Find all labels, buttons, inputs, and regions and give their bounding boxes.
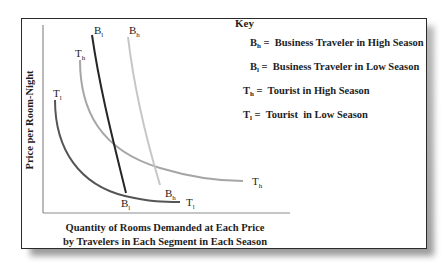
label-bh-top: Bh (129, 24, 140, 39)
label-th-top: Th (75, 47, 86, 62)
label-bh-bottom: Bh (165, 187, 176, 202)
curve-tl (55, 100, 180, 202)
x-axis-label: Quantity of Rooms Demanded at Each Price… (63, 221, 267, 249)
x-axis-label-line1: Quantity of Rooms Demanded at Each Price (63, 221, 267, 235)
curve-bl (92, 35, 126, 193)
key-item-th: Th = Tourist in High Season (243, 85, 370, 98)
curve-th (80, 60, 243, 181)
label-bl-bottom: Bl (121, 197, 130, 212)
y-axis-label: Price per Room-Night (24, 71, 35, 170)
key-title: Key (235, 17, 254, 29)
x-axis-label-line2: by Travelers in Each Segment in Each Sea… (63, 235, 267, 249)
key-item-bh: Bh = Business Traveler in High Season (250, 37, 424, 50)
label-tl-end: Tl (186, 196, 195, 211)
label-th-end: Th (252, 175, 263, 190)
label-tl-top: Tl (53, 87, 62, 102)
key-item-bl: Bl = Business Traveler in Low Season (250, 61, 419, 74)
label-bl-top: Bl (94, 24, 103, 39)
key-item-tl: Tl = Tourist in Low Season (243, 109, 368, 122)
